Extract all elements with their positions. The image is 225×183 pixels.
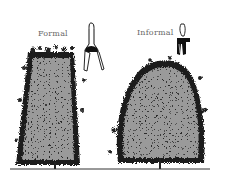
informal-label: Informal bbox=[137, 28, 173, 37]
hedge-shears-icon bbox=[84, 23, 104, 71]
informal-trunk bbox=[159, 158, 161, 169]
formal-trunk bbox=[54, 162, 56, 169]
illustration-canvas bbox=[0, 0, 225, 183]
hedge-illustration: Formal Informal bbox=[0, 0, 225, 183]
hand-pruners-icon bbox=[177, 24, 190, 55]
formal-hedge bbox=[14, 45, 86, 169]
informal-hedge bbox=[108, 56, 207, 169]
formal-label: Formal bbox=[38, 29, 68, 38]
